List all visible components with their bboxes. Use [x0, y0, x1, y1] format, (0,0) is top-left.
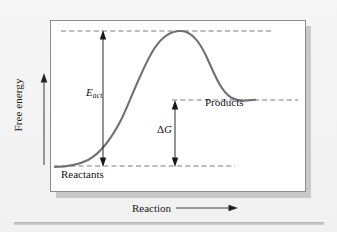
right-arrow-icon	[176, 203, 238, 213]
x-axis-label: Reaction	[132, 202, 171, 214]
x-axis-group: Reaction	[132, 199, 238, 217]
free-energy-change-arrow	[172, 100, 178, 167]
bottom-rule-divider	[14, 222, 324, 225]
up-arrow-icon	[39, 73, 49, 165]
y-axis-label: Free energy	[12, 57, 24, 153]
reactants-label: Reactants	[61, 168, 104, 180]
activation-energy-label: Eact	[86, 86, 103, 100]
products-label: Products	[205, 96, 244, 108]
gibbs-symbol: G	[164, 123, 172, 135]
figure-root: Free energy Reactants Products	[0, 0, 337, 232]
chart-canvas	[50, 20, 306, 192]
y-axis-group: Free energy	[0, 55, 48, 180]
activation-energy-symbol: E	[86, 86, 93, 98]
activation-energy-subscript: act	[93, 91, 103, 100]
free-energy-change-label: ΔG	[157, 123, 172, 135]
